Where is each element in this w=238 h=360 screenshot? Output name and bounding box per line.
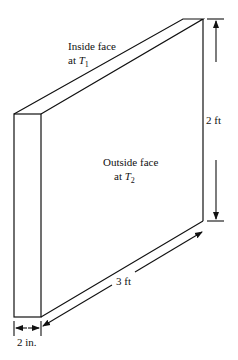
- width-dimension-label: 3 ft: [116, 275, 131, 287]
- wall-bottom-edge: [41, 221, 203, 317]
- thickness-dimension: [14, 321, 41, 336]
- wall-diagram: Inside face at T1 Outside face at T2 2 f…: [0, 0, 238, 360]
- outside-face-label-line1: Outside face: [103, 156, 158, 168]
- wall-edge-face: [14, 114, 41, 317]
- height-dimension-label: 2 ft: [206, 114, 221, 126]
- wall-slab: [14, 19, 203, 317]
- inside-face-label-line2: at T1: [68, 54, 89, 69]
- outside-face-label-line2: at T2: [114, 170, 135, 185]
- wall-top-face: [14, 19, 203, 114]
- inside-face-label-line1: Inside face: [68, 40, 116, 52]
- thickness-dimension-label: 2 in.: [17, 336, 37, 348]
